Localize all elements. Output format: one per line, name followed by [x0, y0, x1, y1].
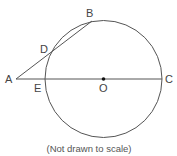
label-b: B [86, 7, 93, 19]
label-d: D [40, 43, 48, 55]
caption: (Not drawn to scale) [46, 143, 131, 154]
label-e: E [34, 82, 41, 94]
center-point-o [102, 77, 106, 81]
label-o: O [99, 82, 108, 94]
label-a: A [5, 73, 13, 85]
label-c: C [165, 73, 173, 85]
secant-ab [16, 21, 92, 79]
geometry-diagram: A B C D E O (Not drawn to scale) [0, 0, 177, 156]
